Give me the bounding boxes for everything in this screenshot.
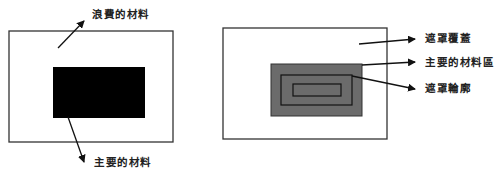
mask-cover-area — [271, 64, 362, 116]
diagram-canvas: 浪費的材料 主要的材料 遮罩覆蓋 主要的材料區 遮罩輪廓 — [0, 0, 501, 177]
label-mask-outline: 遮罩輪廓 — [425, 82, 471, 94]
label-main-material: 主要的材料 — [94, 156, 152, 168]
right-diagram — [223, 28, 415, 139]
label-main-material-area: 主要的材料區 — [425, 56, 494, 68]
left-diagram — [9, 21, 173, 162]
label-waste-material: 浪費的材料 — [92, 8, 150, 20]
label-mask-cover: 遮罩覆蓋 — [425, 32, 471, 44]
main-material-block — [53, 67, 145, 118]
